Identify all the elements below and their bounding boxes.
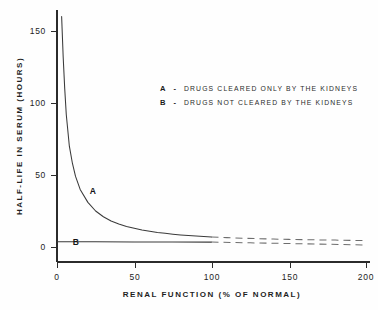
legend-text-b: DRUGS NOT CLEARED BY THE KIDNEYS bbox=[184, 99, 353, 106]
y-tick-label-150: 150 bbox=[30, 26, 46, 36]
legend-key-b: B bbox=[160, 98, 166, 107]
x-axis-title: RENAL FUNCTION (% OF NORMAL) bbox=[123, 290, 301, 299]
curve-label-a: A bbox=[90, 186, 97, 196]
legend-dash-b: - bbox=[174, 98, 177, 107]
series-b-dashed-line bbox=[212, 242, 367, 245]
series-a-solid-line bbox=[62, 17, 212, 237]
legend: A - DRUGS CLEARED ONLY BY THE KIDNEYS B … bbox=[160, 84, 358, 107]
curve-label-b: B bbox=[73, 237, 80, 247]
x-tick-label-200: 200 bbox=[358, 272, 374, 282]
x-tick-label-0: 0 bbox=[54, 272, 59, 282]
legend-entry-b: B - DRUGS NOT CLEARED BY THE KIDNEYS bbox=[160, 98, 353, 107]
y-tick-label-0: 0 bbox=[41, 242, 46, 252]
x-tick-label-100: 100 bbox=[204, 272, 220, 282]
legend-key-a: A bbox=[160, 84, 166, 93]
y-tick-label-50: 50 bbox=[35, 170, 46, 180]
y-tick-label-100: 100 bbox=[30, 98, 46, 108]
legend-dash-a: - bbox=[174, 84, 177, 93]
x-tick-label-50: 50 bbox=[130, 272, 141, 282]
x-tick-label-150: 150 bbox=[282, 272, 298, 282]
legend-text-a: DRUGS CLEARED ONLY BY THE KIDNEYS bbox=[184, 85, 358, 92]
y-axis-title: HALF-LIFE IN SERUM (HOURS) bbox=[15, 57, 24, 215]
chart-canvas: 150 100 50 0 0 50 100 150 200 RENAL FUNC… bbox=[0, 0, 378, 310]
chart-figure: 150 100 50 0 0 50 100 150 200 RENAL FUNC… bbox=[0, 0, 378, 310]
series-a-dashed-line bbox=[212, 237, 367, 241]
legend-entry-a: A - DRUGS CLEARED ONLY BY THE KIDNEYS bbox=[160, 84, 358, 93]
